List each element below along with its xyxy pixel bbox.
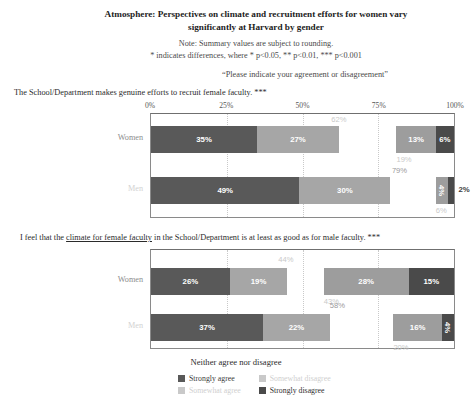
total-agree: 58% — [330, 301, 345, 310]
panel-1-axis: 0% 25% 50% 75% 100% — [150, 101, 455, 112]
axis-tick-25: 25% — [219, 101, 233, 110]
legend-item-strongly-disagree: Strongly disagree — [259, 386, 331, 395]
chart-legend: Strongly agree Somewhat disagree Somewha… — [178, 374, 331, 395]
legend-label-strongly-disagree: Strongly disagree — [270, 386, 325, 395]
panel-1-plot: Women 35% 27% 13% 6% 62% 19% Men 49% 30%… — [150, 113, 455, 218]
row-label-men: Men — [73, 321, 143, 330]
axis-tick-75: 75% — [372, 101, 386, 110]
axis-tick-0: 0% — [145, 101, 155, 110]
legend-item-somewhat-agree: Somewhat agree — [178, 386, 241, 395]
total-agree: 79% — [392, 166, 407, 175]
note-line-1: Note: Summary values are subject to roun… — [86, 38, 426, 50]
legend-swatch-somewhat-agree — [178, 387, 185, 394]
bar-strongly-disagree: 4% — [442, 314, 454, 341]
legend-swatch-somewhat-disagree — [259, 375, 266, 382]
bar-somewhat-disagree: 16% — [393, 314, 441, 341]
axis-tick-50: 50% — [296, 101, 310, 110]
chart-page: Atmosphere: Perspectives on climate and … — [0, 0, 472, 407]
label-strongly-disagree-outside: 2% — [459, 185, 470, 194]
bar-strongly-disagree — [448, 177, 454, 204]
bar-somewhat-disagree: 4% — [436, 177, 448, 204]
legend-label-somewhat-disagree: Somewhat disagree — [270, 374, 331, 383]
panel-2-question-underlined: climate for female faculty — [66, 233, 152, 242]
bar-strongly-agree: 49% — [151, 177, 299, 204]
page-title: Atmosphere: Perspectives on climate and … — [96, 8, 416, 33]
legend-item-strongly-agree: Strongly agree — [178, 374, 241, 383]
panel-2-question-suffix: in the School/Department is at least as … — [152, 233, 380, 242]
legend-swatch-strongly-agree — [178, 375, 185, 382]
panel-2-question-prefix: I feel that the — [20, 233, 66, 242]
total-disagree: 6% — [436, 206, 447, 215]
legend-label-strongly-agree: Strongly agree — [189, 374, 235, 383]
axis-tick-100: 100% — [446, 101, 464, 110]
panel-2-row-men: Men 37% 22% 16% 4% 58% 20% — [151, 250, 454, 348]
legend-item-somewhat-disagree: Somewhat disagree — [259, 374, 331, 383]
chart-note: Note: Summary values are subject to roun… — [86, 38, 426, 61]
row-label-men: Men — [73, 184, 143, 193]
panel-1-row-men: Men 49% 30% 4% 2% 79% 6% — [151, 114, 454, 217]
row-label-women: Women — [73, 133, 143, 142]
survey-prompt: “Please indicate your agreement or disag… — [150, 70, 460, 79]
legend-center-label: Neither agree nor disagree — [0, 357, 472, 367]
total-disagree: 20% — [393, 343, 408, 352]
bar-somewhat-agree: 30% — [299, 177, 390, 204]
panel-1-question-stars: *** — [254, 88, 266, 97]
panel-1-question: The School/Department makes genuine effo… — [14, 88, 267, 97]
note-line-2: * indicates differences, where * p<0.05,… — [86, 50, 426, 62]
bar-strongly-agree: 37% — [151, 314, 263, 341]
legend-label-somewhat-agree: Somewhat agree — [189, 386, 241, 395]
bar-somewhat-agree: 22% — [263, 314, 330, 341]
panel-2-question: I feel that the climate for female facul… — [20, 233, 380, 242]
legend-swatch-strongly-disagree — [259, 387, 266, 394]
row-label-women: Women — [73, 275, 143, 284]
panel-2-plot: Women 26% 19% 28% 15% 44% 43% Men 37% 22… — [150, 249, 455, 349]
panel-1-question-text: The School/Department makes genuine effo… — [14, 88, 254, 97]
